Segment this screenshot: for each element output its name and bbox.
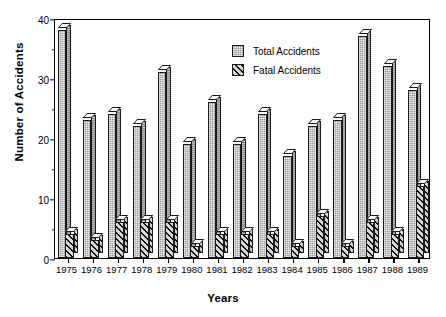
x-tick-label-1984: 1984 bbox=[282, 264, 303, 275]
x-tick-mark bbox=[118, 258, 119, 263]
bar-fatal bbox=[266, 234, 275, 258]
x-tick-mark bbox=[268, 258, 269, 263]
bar-side-face bbox=[224, 229, 229, 253]
x-tick-mark bbox=[293, 258, 294, 263]
bar-group bbox=[80, 18, 105, 258]
x-tick-label-1979: 1979 bbox=[156, 264, 177, 275]
legend-item-total: Total Accidents bbox=[232, 45, 321, 57]
bar-front-face bbox=[215, 234, 224, 258]
legend-item-fatal: Fatal Accidents bbox=[232, 64, 321, 76]
x-tick-mark bbox=[418, 258, 419, 263]
bar-total bbox=[183, 144, 192, 258]
x-tick-label-1982: 1982 bbox=[231, 264, 252, 275]
bar-side-face bbox=[99, 235, 104, 253]
x-tick-label-1985: 1985 bbox=[307, 264, 328, 275]
bar-fatal bbox=[115, 222, 124, 258]
accidents-bar-chart: Number of Accidents Years 010203040 1975… bbox=[0, 0, 446, 317]
bar-front-face bbox=[190, 246, 199, 258]
legend-swatch-total-icon bbox=[232, 45, 244, 57]
bar-front-face bbox=[366, 222, 375, 258]
y-tick-label: 40 bbox=[38, 15, 55, 26]
bar-fatal bbox=[416, 186, 425, 258]
bar-fatal bbox=[65, 234, 74, 258]
x-tick-label-1987: 1987 bbox=[357, 264, 378, 275]
bar-group bbox=[331, 18, 356, 258]
bar-front-face bbox=[65, 234, 74, 258]
x-tick-mark bbox=[143, 258, 144, 263]
bar-fatal bbox=[90, 240, 99, 258]
y-tick-label: 20 bbox=[38, 135, 55, 146]
bar-front-face bbox=[391, 234, 400, 258]
bar-fatal bbox=[215, 234, 224, 258]
bar-fatal bbox=[140, 222, 149, 258]
bar-side-face bbox=[399, 229, 404, 253]
bar-side-face bbox=[149, 217, 154, 253]
bar-front-face bbox=[58, 30, 67, 258]
bar-fatal bbox=[366, 222, 375, 258]
bar-front-face bbox=[416, 186, 425, 258]
bar-fatal bbox=[190, 246, 199, 258]
bar-front-face bbox=[240, 234, 249, 258]
bar-group bbox=[130, 18, 155, 258]
bar-front-face bbox=[316, 216, 325, 258]
bar-front-face bbox=[291, 246, 300, 258]
y-axis-title: Number of Accidents bbox=[13, 22, 25, 182]
bar-front-face bbox=[383, 66, 392, 258]
x-tick-label-1986: 1986 bbox=[332, 264, 353, 275]
bar-front-face bbox=[333, 120, 342, 258]
bar-group bbox=[155, 18, 180, 258]
x-tick-label-1978: 1978 bbox=[131, 264, 152, 275]
x-tick-label-1983: 1983 bbox=[256, 264, 277, 275]
bar-group bbox=[105, 18, 130, 258]
x-tick-label-1976: 1976 bbox=[81, 264, 102, 275]
x-tick-label-1980: 1980 bbox=[181, 264, 202, 275]
x-tick-mark bbox=[68, 258, 69, 263]
bar-fatal bbox=[391, 234, 400, 258]
bar-side-face bbox=[191, 139, 196, 253]
y-tick-label: 30 bbox=[38, 75, 55, 86]
bar-fatal bbox=[240, 234, 249, 258]
bar-total bbox=[58, 30, 67, 258]
bar-group bbox=[406, 18, 431, 258]
x-tick-label-1975: 1975 bbox=[56, 264, 77, 275]
bar-side-face bbox=[174, 217, 179, 253]
bar-fatal bbox=[165, 222, 174, 258]
x-tick-mark bbox=[168, 258, 169, 263]
x-tick-mark bbox=[243, 258, 244, 263]
bar-side-face bbox=[374, 217, 379, 253]
x-tick-mark bbox=[393, 258, 394, 263]
x-tick-mark bbox=[318, 258, 319, 263]
bar-group bbox=[180, 18, 205, 258]
bar-side-face bbox=[249, 229, 254, 253]
y-tick-mark-minor bbox=[52, 169, 56, 170]
chart-legend: Total Accidents Fatal Accidents bbox=[232, 45, 321, 83]
bar-front-face bbox=[165, 222, 174, 258]
bar-front-face bbox=[266, 234, 275, 258]
x-tick-mark bbox=[193, 258, 194, 263]
bar-side-face bbox=[392, 61, 397, 253]
y-tick-label: 0 bbox=[43, 255, 55, 266]
y-tick-label: 10 bbox=[38, 195, 55, 206]
y-tick-mark-minor bbox=[52, 109, 56, 110]
bar-side-face bbox=[66, 25, 71, 253]
bar-front-face bbox=[115, 222, 124, 258]
x-tick-label-1988: 1988 bbox=[382, 264, 403, 275]
bar-fatal bbox=[316, 216, 325, 258]
x-tick-label-1981: 1981 bbox=[206, 264, 227, 275]
legend-swatch-fatal-icon bbox=[232, 64, 244, 76]
x-tick-label-1989: 1989 bbox=[407, 264, 428, 275]
x-tick-mark bbox=[93, 258, 94, 263]
bar-side-face bbox=[342, 115, 347, 253]
bar-group bbox=[55, 18, 80, 258]
x-axis-title: Years bbox=[0, 292, 446, 304]
bar-fatal bbox=[291, 246, 300, 258]
x-tick-mark bbox=[343, 258, 344, 263]
bar-side-face bbox=[424, 181, 429, 253]
bar-front-face bbox=[183, 144, 192, 258]
y-tick-mark-minor bbox=[52, 229, 56, 230]
legend-label-fatal: Fatal Accidents bbox=[253, 65, 321, 76]
bar-side-face bbox=[74, 229, 79, 253]
bar-front-face bbox=[140, 222, 149, 258]
bar-total bbox=[333, 120, 342, 258]
bar-side-face bbox=[292, 151, 297, 253]
